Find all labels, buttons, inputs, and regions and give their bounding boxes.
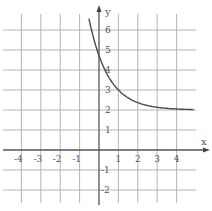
y-axis-arrow-icon (97, 5, 102, 12)
x-tick-label: 1 (116, 154, 122, 164)
x-tick-label: -4 (14, 154, 23, 164)
x-tick-label: -2 (53, 154, 62, 164)
x-tick-label: 3 (154, 154, 160, 164)
y-tick-label: 3 (105, 85, 111, 95)
y-tick-label: -2 (101, 185, 110, 195)
x-tick-label: 2 (135, 154, 141, 164)
x-tick-label: -3 (33, 154, 42, 164)
x-axis-arrow-icon (203, 148, 210, 153)
y-tick-label: -1 (101, 165, 110, 175)
y-tick-label: 2 (105, 105, 111, 115)
x-axis-label: x (201, 136, 207, 147)
y-axis-label: y (104, 6, 111, 17)
y-tick-label: 4 (105, 65, 111, 75)
y-tick-label: 5 (105, 45, 111, 55)
x-tick-label: 4 (174, 154, 180, 164)
y-tick-label: 6 (105, 25, 111, 35)
y-tick-label: 1 (105, 125, 111, 135)
x-tick-label: -1 (72, 154, 81, 164)
function-graph: x y -4-3-2-11234-2-1123456 (0, 0, 212, 211)
